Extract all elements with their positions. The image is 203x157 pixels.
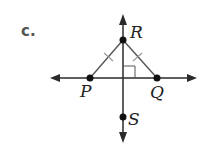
point-q — [154, 75, 161, 82]
arrow-left-icon — [50, 74, 60, 82]
label-p: P — [79, 81, 92, 101]
arrow-up-icon — [119, 14, 127, 25]
arrow-right-icon — [187, 74, 197, 82]
part-label: c. — [21, 22, 36, 40]
point-s — [120, 114, 127, 121]
perpendicular-bisector-diagram: c. R P Q S — [0, 0, 203, 157]
segment-pr — [90, 40, 123, 78]
segment-rq — [123, 40, 157, 78]
right-angle-marker — [123, 66, 135, 78]
label-s: S — [128, 109, 140, 129]
point-r — [120, 37, 127, 44]
label-q: Q — [150, 82, 164, 102]
label-r: R — [129, 22, 143, 42]
arrow-down-icon — [119, 132, 127, 143]
